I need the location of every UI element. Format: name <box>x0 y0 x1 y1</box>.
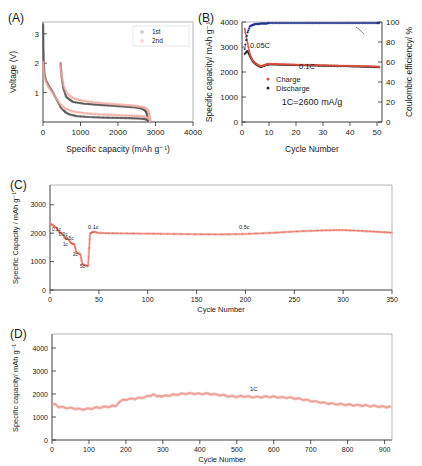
panel-a-label: (A) <box>8 11 24 25</box>
panel-b-ytick-0: 0 <box>234 118 239 127</box>
panel-d-curves <box>53 392 390 410</box>
panel-d-xtick-600: 600 <box>268 446 280 453</box>
rate-label-0-5c: 0.5c <box>65 236 74 241</box>
panel-b-xtick-50: 50 <box>373 128 382 137</box>
panel-b-xtick-0: 0 <box>240 128 245 137</box>
panel-c-xticks: 0 50 100 150 200 250 300 350 <box>48 290 398 303</box>
panel-b-xtick-30: 30 <box>319 128 328 137</box>
panel-b-ytick-3000: 3000 <box>220 43 238 52</box>
panel-a-ytick-2: 2 <box>35 59 40 68</box>
panel-d-xtick-700: 700 <box>305 446 317 453</box>
panel-a-legend-2nd: 2nd <box>152 37 163 44</box>
panel-c-svg: (C) 0 1000 2000 3000 <box>0 163 422 311</box>
rate-label-1c: 1c <box>63 242 69 247</box>
panel-b-ytick-1000: 1000 <box>220 93 238 102</box>
panel-d-yticks: 0 1000 2000 3000 4000 <box>32 345 56 444</box>
panel-d-xtick-300: 300 <box>157 446 169 453</box>
panel-a: (A) 1 2 3 0 <box>0 0 205 160</box>
panel-c-xtick-50: 50 <box>95 296 103 303</box>
panel-b-xticks: 0 10 20 30 40 50 <box>240 122 382 137</box>
panel-b-xtick-20: 20 <box>292 128 301 137</box>
panel-a-svg: (A) 1 2 3 0 <box>0 0 205 160</box>
panel-d-svg: (D) 0 1000 2000 3000 4000 0100200300400 <box>0 312 422 466</box>
panel-b-ylabel-right: Coulombic efficiency/ % <box>404 27 414 118</box>
panel-b-axes <box>242 22 382 122</box>
panel-b-xtick-10: 10 <box>265 128 274 137</box>
panel-a-xtick-1: 1000 <box>72 128 90 137</box>
panel-a-ytick-1: 1 <box>35 89 40 98</box>
panel-b-ylabel: Specific capacity/ mAh g⁻¹ <box>204 22 214 123</box>
panel-b-yticks-right: 0 20 40 60 80 100 <box>378 18 400 127</box>
panel-b-rtick-20: 20 <box>386 98 395 107</box>
panel-b-annotation-01c: 0.1C <box>299 62 315 71</box>
rate-label-0-1c-b: 0.1c <box>88 224 99 230</box>
rate-label-5c: 5c <box>80 264 86 269</box>
panel-a-legend: 1st 2nd <box>133 26 189 46</box>
panel-a-legend-1st: 1st <box>152 28 161 35</box>
panel-b-legend-charge: Charge <box>276 75 301 84</box>
panel-a-ytick-3: 3 <box>35 30 40 39</box>
panel-b-rtick-40: 40 <box>386 78 395 87</box>
panel-a-xlabel: Specific capacity (mAh g⁻¹) <box>66 144 170 154</box>
panel-c-ytick-1000: 1000 <box>30 258 46 265</box>
panel-b-ytick-4000: 4000 <box>220 18 238 27</box>
panel-c-ylabel: Specific Capacity / mAh g⁻¹ <box>11 192 20 284</box>
panel-d-ytick-1000: 1000 <box>32 414 48 421</box>
panel-d-xtick-200: 200 <box>120 446 132 453</box>
panel-b-xtick-40: 40 <box>346 128 355 137</box>
panel-c-curves <box>50 223 392 266</box>
panel-b-legend-discharge: Discharge <box>276 84 310 93</box>
panel-d-xticks: 0100200300400500600700800900 <box>50 440 391 453</box>
panel-b-legend: Charge Discharge <box>267 75 310 93</box>
panel-d-ytick-2000: 2000 <box>32 391 48 398</box>
panel-b-rtick-0: 0 <box>386 118 391 127</box>
figure-container: (A) 1 2 3 0 <box>0 0 422 466</box>
panel-d-ytick-3000: 3000 <box>32 368 48 375</box>
rate-label-0-5c-b: 0.5c <box>239 224 250 230</box>
panel-d-ytick-4000: 4000 <box>32 345 48 352</box>
panel-b-annotation-005c: 0.05C <box>250 41 271 50</box>
panel-c-xtick-350: 350 <box>386 296 398 303</box>
panel-d-xtick-100: 100 <box>83 446 95 453</box>
panel-c-ytick-0: 0 <box>42 287 46 294</box>
rate-label-2c: 2c <box>73 252 79 257</box>
panel-a-xtick-3: 3000 <box>147 128 165 137</box>
panel-c-yticks: 0 1000 2000 3000 <box>30 201 54 293</box>
panel-b-rtick-100: 100 <box>386 18 400 27</box>
panel-d-xtick-0: 0 <box>50 446 54 453</box>
panel-c-ytick-3000: 3000 <box>30 201 46 208</box>
panel-d-annotation-1c: 1C <box>250 386 258 392</box>
efficiency-pointer-icon <box>356 27 364 34</box>
panel-c-xtick-300: 300 <box>337 296 349 303</box>
panel-d-label: (D) <box>10 327 27 341</box>
panel-b-rtick-80: 80 <box>386 38 395 47</box>
panel-b-rtick-60: 60 <box>386 58 395 67</box>
panel-d-xtick-900: 900 <box>379 446 391 453</box>
panel-c: (C) 0 1000 2000 3000 <box>0 163 422 311</box>
panel-c-xtick-200: 200 <box>240 296 252 303</box>
panel-c-xtick-250: 250 <box>288 296 300 303</box>
panel-b-svg: (B) 0 1000 2000 3000 4000 <box>196 0 422 160</box>
panel-d-xtick-500: 500 <box>231 446 243 453</box>
panel-d-axes <box>52 334 392 440</box>
panel-b: (B) 0 1000 2000 3000 4000 <box>196 0 422 160</box>
panel-b-annotation-rate: 1C=2600 mA/g <box>282 97 342 107</box>
panel-a-xtick-0: 0 <box>41 128 46 137</box>
panel-a-xticks: 0 1000 2000 3000 4000 <box>41 122 203 137</box>
panel-b-ytick-2000: 2000 <box>220 68 238 77</box>
panel-d-ytick-0: 0 <box>44 437 48 444</box>
panel-d-ylabel: Specific capacity/ mAh g⁻¹ <box>11 343 20 432</box>
panel-b-xlabel: Cycle Number <box>285 144 339 154</box>
panel-a-xtick-2: 2000 <box>109 128 127 137</box>
panel-c-axes <box>50 185 392 290</box>
panel-c-ytick-2000: 2000 <box>30 230 46 237</box>
panel-d-xtick-800: 800 <box>342 446 354 453</box>
panel-c-xtick-100: 100 <box>142 296 154 303</box>
panel-a-ylabel: Voltage (V) <box>8 51 18 93</box>
panel-d-xtick-400: 400 <box>194 446 206 453</box>
panel-c-xtick-0: 0 <box>48 296 52 303</box>
panel-d-xlabel: Cycle Number <box>198 455 246 464</box>
panel-c-label: (C) <box>10 178 27 192</box>
panel-c-xtick-150: 150 <box>191 296 203 303</box>
panel-a-curves <box>43 25 151 121</box>
